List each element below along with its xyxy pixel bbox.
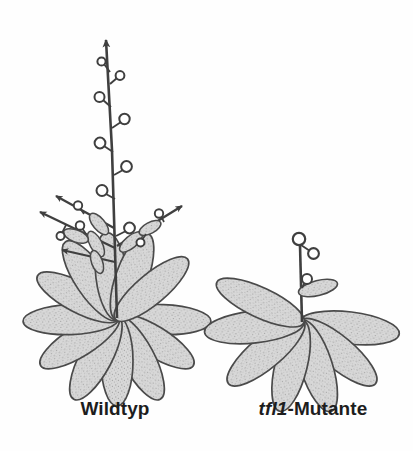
flower-bud [293, 233, 305, 245]
wildtype-plant [23, 40, 212, 407]
mutant-terminal-flower [293, 233, 319, 259]
plant-comparison-diagram [0, 0, 413, 451]
figure-root: Wildtyp tfl1-Mutante [0, 0, 413, 451]
flower-bud [302, 274, 312, 284]
flower-bud [74, 201, 84, 214]
flower-bud [110, 71, 124, 84]
flower-bud [112, 114, 130, 128]
tfl1-mutant-plant [203, 233, 401, 417]
mutant-main-stem [300, 245, 302, 322]
flower-bud [308, 248, 319, 259]
mutant-cauline-node [297, 274, 339, 300]
flower-bud [114, 161, 132, 175]
